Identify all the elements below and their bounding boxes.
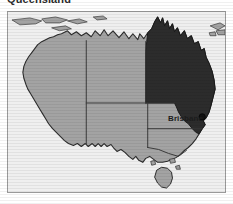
city-label-brisbane: Brisbane (168, 114, 203, 123)
page-title: Queensland (7, 0, 71, 5)
page-title-clip: Queensland (7, 0, 71, 6)
map-of-australia[interactable] (8, 12, 225, 192)
page-root: Queensland (0, 0, 233, 204)
map-frame[interactable] (7, 11, 226, 193)
